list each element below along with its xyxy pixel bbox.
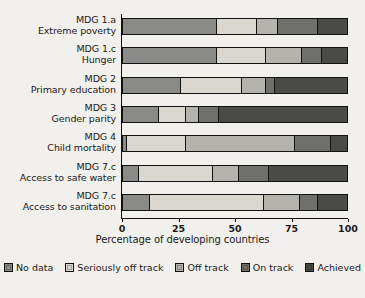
bar-segment (186, 107, 199, 122)
category-axis-labels: MDG 1.aExtreme povertyMDG 1.cHungerMDG 2… (0, 14, 116, 219)
x-tick-mark (179, 219, 180, 222)
bar-segment (139, 166, 213, 181)
legend-item[interactable]: On track (241, 262, 294, 273)
bar-segment (199, 107, 219, 122)
legend-label: On track (253, 262, 294, 273)
bar-segment (264, 195, 300, 210)
x-tick-label: 100 (338, 223, 358, 234)
bar-segment (318, 195, 347, 210)
bar-row (122, 106, 348, 123)
legend-item[interactable]: Achieved (305, 262, 361, 273)
legend-item[interactable]: No data (4, 262, 53, 273)
legend-item[interactable]: Seriously off track (65, 262, 163, 273)
legend-swatch-icon (241, 263, 250, 272)
x-tick-mark (235, 219, 236, 222)
x-tick-label: 50 (228, 223, 241, 234)
category-label-line1: MDG 4 (0, 131, 116, 142)
bar-segment (123, 107, 159, 122)
plot-area (122, 14, 348, 219)
category-label-line1: MDG 2 (0, 73, 116, 84)
bar-segment (213, 166, 240, 181)
bar-segment (150, 195, 264, 210)
bar-segment (331, 136, 347, 151)
bar-segment (123, 78, 181, 93)
bar-row (122, 135, 348, 152)
bar-segment (300, 195, 318, 210)
bar-row (122, 165, 348, 182)
chart-legend: No dataSeriously off trackOff trackOn tr… (4, 262, 361, 273)
bar-segment (123, 48, 217, 63)
x-tick-mark (292, 219, 293, 222)
legend-label: Off track (187, 262, 228, 273)
legend-label: No data (16, 262, 53, 273)
category-label-line2: Access to safe water (0, 172, 116, 183)
x-axis-title: Percentage of developing countries (0, 234, 365, 245)
x-axis-ticks: 0255075100 (122, 219, 348, 229)
category-label-line2: Hunger (0, 54, 116, 65)
x-tick-mark (122, 219, 123, 222)
bar-row (122, 194, 348, 211)
bar-segment (278, 19, 318, 34)
bar-segment (123, 195, 150, 210)
category-label-line1: MDG 7.c (0, 190, 116, 201)
legend-item[interactable]: Off track (175, 262, 228, 273)
category-label-line2: Extreme poverty (0, 25, 116, 36)
x-tick-label: 75 (285, 223, 298, 234)
bar-segment (266, 78, 275, 93)
bar-segment (302, 48, 322, 63)
bar-segment (257, 19, 277, 34)
bar-segment (127, 136, 185, 151)
category-label: MDG 7.cAccess to safe water (0, 161, 116, 183)
bar-row (122, 47, 348, 64)
category-label: MDG 7.cAccess to sanitation (0, 190, 116, 212)
bar-row (122, 77, 348, 94)
category-label-line1: MDG 3 (0, 102, 116, 113)
stacked-bar-chart: MDG 1.aExtreme povertyMDG 1.cHungerMDG 2… (0, 0, 365, 298)
legend-label: Seriously off track (77, 262, 163, 273)
bar-segment (219, 107, 347, 122)
category-label-line2: Primary education (0, 84, 116, 95)
category-label-line2: Access to sanitation (0, 201, 116, 212)
bar-segment (217, 19, 257, 34)
legend-label: Achieved (317, 262, 361, 273)
bar-segment (123, 19, 217, 34)
bar-segment (318, 19, 347, 34)
bar-segment (217, 48, 266, 63)
bar-segment (266, 48, 302, 63)
bar-segment (269, 166, 347, 181)
bar-segment (295, 136, 331, 151)
legend-swatch-icon (305, 263, 314, 272)
bar-segment (186, 136, 296, 151)
bar-segment (275, 78, 347, 93)
x-tick-mark (348, 219, 349, 222)
category-label: MDG 1.aExtreme poverty (0, 14, 116, 36)
category-label: MDG 1.cHunger (0, 43, 116, 65)
bar-segment (181, 78, 241, 93)
x-tick-label: 0 (119, 223, 126, 234)
category-label: MDG 4Child mortality (0, 131, 116, 153)
bar-segment (159, 107, 186, 122)
legend-swatch-icon (65, 263, 74, 272)
bar-segment (322, 48, 347, 63)
legend-swatch-icon (4, 263, 13, 272)
bar-segment (242, 78, 267, 93)
bar-segment (239, 166, 268, 181)
category-label: MDG 3Gender parity (0, 102, 116, 124)
category-label-line2: Gender parity (0, 113, 116, 124)
category-label-line1: MDG 7.c (0, 161, 116, 172)
category-label-line1: MDG 1.c (0, 43, 116, 54)
legend-swatch-icon (175, 263, 184, 272)
bar-rows (122, 14, 348, 219)
bar-segment (123, 166, 139, 181)
category-label-line2: Child mortality (0, 142, 116, 153)
bar-row (122, 18, 348, 35)
category-label-line1: MDG 1.a (0, 14, 116, 25)
category-label: MDG 2Primary education (0, 73, 116, 95)
x-tick-label: 25 (172, 223, 185, 234)
